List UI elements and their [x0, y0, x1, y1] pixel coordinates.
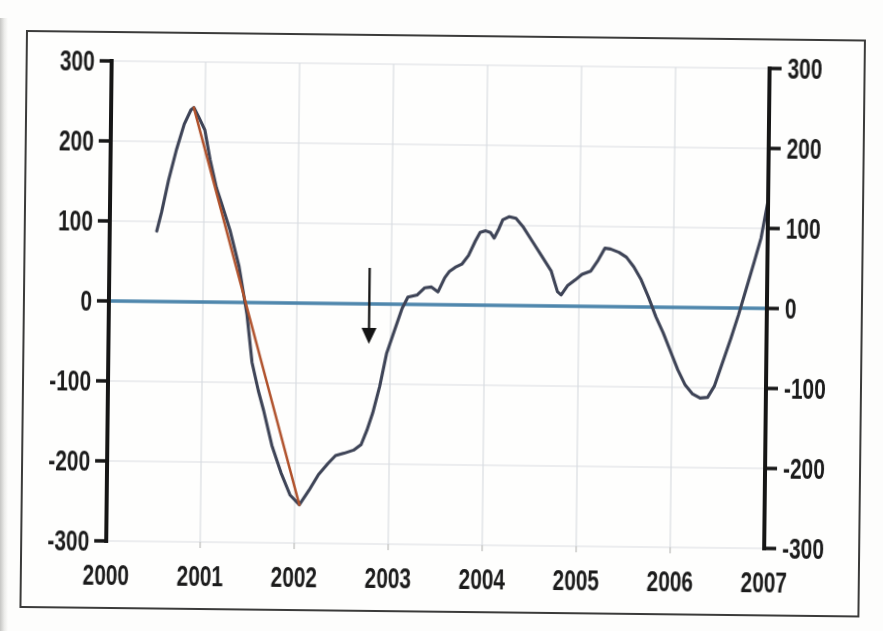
y-tick-label-left: 0: [80, 284, 92, 316]
x-tick-label: 2007: [740, 566, 787, 599]
h-gridline: [107, 461, 765, 468]
y-tick-label-left: 200: [59, 124, 94, 157]
arrow-stem: [369, 268, 370, 329]
y-tick-label-right: -300: [782, 532, 824, 565]
y-tick-label-right: -100: [784, 372, 826, 405]
y-tick-label-right: 200: [787, 132, 822, 165]
arrow-head-icon: [361, 328, 376, 344]
x-tick-label: 2005: [552, 564, 599, 597]
data-series-lines: [107, 107, 769, 510]
y-tick-label-left: -100: [49, 364, 91, 397]
peak-to-trough-trend-line: [189, 108, 303, 505]
y-tick-label-right: -200: [783, 452, 825, 485]
x-tick-label: 2003: [364, 561, 411, 594]
h-gridline: [110, 221, 768, 228]
y-tick-label-right: 0: [785, 292, 797, 324]
x-tick-label: 2000: [82, 558, 129, 591]
chart-figure-box: 3002001000-100-200-3003002001000-100-200…: [19, 30, 866, 617]
scanned-page: 3002001000-100-200-3003002001000-100-200…: [0, 0, 883, 631]
x-tick-label: 2001: [176, 559, 223, 592]
y-tick-label-right: 100: [786, 212, 821, 245]
zero-baseline-line: [109, 301, 767, 308]
y-tick-label-right: 300: [787, 52, 822, 85]
page-edge-shadow: [0, 18, 8, 631]
chart-canvas: 3002001000-100-200-3003002001000-100-200…: [21, 32, 863, 615]
h-gridline: [108, 381, 766, 388]
axis-tick-labels: 3002001000-100-200-3003002001000-100-200…: [47, 44, 830, 599]
x-tick-label: 2006: [646, 565, 693, 598]
y-tick-label-left: 300: [60, 44, 95, 77]
h-gridline: [112, 61, 770, 68]
h-gridline: [106, 541, 764, 548]
x-tick-label: 2004: [458, 563, 505, 596]
x-tick-label: 2002: [270, 560, 317, 593]
y-tick-label-left: -300: [47, 524, 89, 557]
annotation-arrow: [361, 268, 377, 344]
y-tick-label-left: -200: [48, 444, 90, 477]
y-tick-label-left: 100: [58, 204, 93, 237]
